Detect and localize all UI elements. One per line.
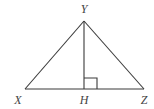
right-angle-marker — [84, 78, 97, 89]
segment-yz — [84, 21, 144, 89]
triangle-diagram: Y X H Z — [0, 0, 154, 109]
segment-xy — [25, 21, 84, 89]
label-x: X — [13, 93, 22, 107]
label-h: H — [79, 93, 90, 107]
label-y: Y — [81, 2, 89, 16]
label-z: Z — [141, 93, 148, 107]
